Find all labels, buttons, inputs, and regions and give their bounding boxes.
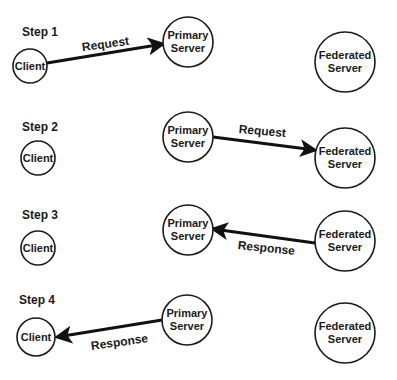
federated-label: Federated: [319, 145, 372, 157]
edge-label: Response: [90, 331, 149, 353]
step-label: Step 1: [22, 25, 58, 39]
step-label: Step 3: [22, 208, 58, 222]
client-node: Client: [13, 49, 47, 83]
federated-node: FederatedServer: [315, 211, 375, 271]
step-3: Step 3ResponseClientPrimaryServerFederat…: [21, 205, 375, 271]
federated-label: Server: [328, 333, 363, 345]
edge-response-arrow: Response: [213, 229, 315, 258]
federated-label: Server: [328, 241, 363, 253]
edge-label: Request: [238, 122, 286, 140]
edge-label: Response: [237, 238, 296, 258]
federated-node: FederatedServer: [315, 32, 375, 92]
primary-label: Server: [171, 42, 206, 54]
client-label: Client: [23, 152, 54, 164]
federated-label: Server: [328, 62, 363, 74]
federated-label: Server: [328, 158, 363, 170]
step-2: Step 2RequestClientPrimaryServerFederate…: [21, 112, 375, 188]
primary-label: Primary: [168, 29, 210, 41]
federated-label: Federated: [319, 228, 372, 240]
steps-layer: Step 1RequestClientPrimaryServerFederate…: [13, 17, 375, 363]
federation-sequence-diagram: Step 1RequestClientPrimaryServerFederate…: [0, 0, 397, 380]
primary-node: PrimaryServer: [163, 205, 213, 255]
arrow-line: [213, 137, 315, 150]
federated-node: FederatedServer: [315, 128, 375, 188]
primary-label: Server: [170, 320, 205, 332]
primary-node: PrimaryServer: [163, 17, 213, 67]
client-label: Client: [21, 331, 52, 343]
client-node: Client: [21, 231, 55, 265]
primary-label: Primary: [168, 124, 210, 136]
primary-node: PrimaryServer: [163, 112, 213, 162]
client-label: Client: [23, 242, 54, 254]
primary-node: PrimaryServer: [162, 295, 212, 345]
primary-label: Primary: [168, 217, 210, 229]
step-4: Step 4ResponseClientPrimaryServerFederat…: [17, 293, 375, 363]
step-label: Step 4: [19, 293, 55, 307]
primary-label: Server: [171, 137, 206, 149]
step-label: Step 2: [22, 120, 58, 134]
client-label: Client: [15, 60, 46, 72]
federated-node: FederatedServer: [315, 303, 375, 363]
primary-label: Server: [171, 230, 206, 242]
step-1: Step 1RequestClientPrimaryServerFederate…: [13, 17, 375, 92]
client-node: Client: [17, 318, 55, 356]
primary-label: Primary: [167, 307, 209, 319]
edge-response-arrow: Response: [57, 320, 162, 353]
edge-request-arrow: Request: [213, 122, 315, 150]
federated-label: Federated: [319, 49, 372, 61]
edge-request-arrow: Request: [47, 34, 163, 63]
federated-label: Federated: [319, 320, 372, 332]
client-node: Client: [21, 141, 55, 175]
